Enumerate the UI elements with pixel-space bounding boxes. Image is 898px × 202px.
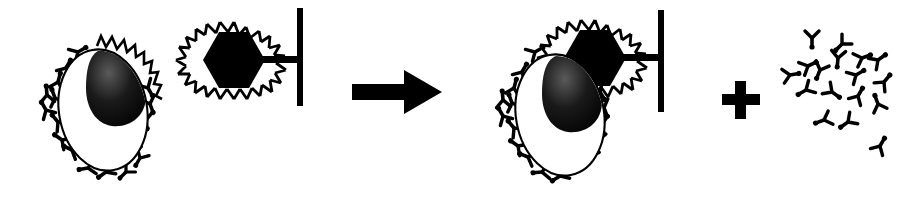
reactant-receptor-patch [86,50,146,126]
diagram-svg [0,0,898,202]
reaction-arrow [352,70,442,114]
ligand-linker [249,56,301,63]
substrate-surface-right [658,10,664,112]
bound-complex-group [491,10,664,188]
surface-ligand-group [176,8,303,106]
reactant-cell-group [34,36,162,184]
substrate-surface-left [297,8,303,106]
plus-operator [722,81,760,119]
free-receptor-cloud [782,31,897,156]
figure-canvas [0,0,898,202]
complex-linker [610,54,662,61]
